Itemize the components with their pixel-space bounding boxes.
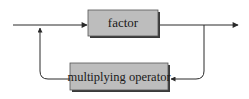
syntax-diagram: factor multiplying operator	[0, 0, 249, 99]
loop-branch-left	[40, 28, 70, 79]
multiplying-operator-box: multiplying operator	[67, 63, 171, 92]
loop-branch-right	[171, 25, 204, 79]
multiplying-operator-label: multiplying operator	[67, 70, 171, 84]
factor-label: factor	[108, 15, 139, 30]
factor-box: factor	[88, 10, 160, 38]
